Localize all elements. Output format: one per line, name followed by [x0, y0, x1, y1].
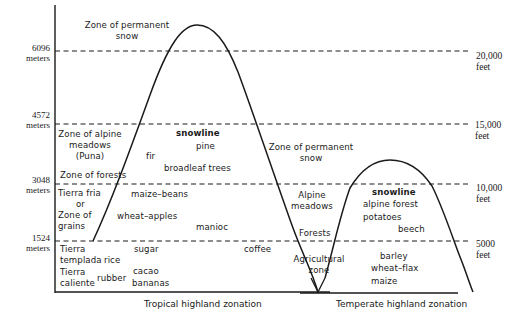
temperate-barley: barley — [380, 251, 408, 262]
zone-label-line: meadows — [58, 140, 122, 151]
temperate-caption: Temperate highland zonation — [336, 299, 467, 309]
zone-label-line: Tierra — [60, 267, 95, 278]
tropical-wheat-apples: wheat–apples — [117, 211, 177, 222]
temperate-zone-alpine-meadows: Alpine meadows — [290, 190, 334, 212]
tick-value: 15,000 — [475, 120, 501, 131]
zone-label-line: (Puna) — [58, 151, 122, 162]
tropical-zone-tierra-caliente: Tierra caliente — [60, 267, 95, 289]
zone-label-line: meadows — [290, 201, 334, 212]
temperate-maize: maize — [371, 276, 397, 287]
right-tick-5000: 5000 feet — [476, 239, 495, 261]
tick-unit: feet — [476, 194, 502, 205]
temperate-beech: beech — [398, 224, 425, 235]
zone-label-line: Tierra fria — [58, 188, 104, 199]
tropical-rubber: rubber — [97, 273, 126, 284]
tropical-zone-alpine-meadows: Zone of alpine meadows (Puna) — [58, 129, 122, 162]
tropical-rice: rice — [104, 255, 120, 266]
temperate-zone-forests: Forests — [299, 228, 331, 239]
tropical-sugar: sugar — [134, 244, 159, 255]
tick-value: 3048 — [12, 175, 50, 185]
temperate-potatoes: potatoes — [363, 212, 402, 223]
temperate-zone-agricultural: Agricultural zone — [292, 254, 346, 276]
zone-label-line: snow — [266, 153, 356, 164]
tick-unit: feet — [476, 62, 502, 73]
tick-value: 6096 — [12, 43, 50, 53]
zone-label-line: snow — [72, 31, 182, 42]
tropical-cacao: cacao — [133, 266, 159, 277]
tropical-snowline: snowline — [176, 128, 220, 139]
tropical-zone-tierra-fria: Tierra fria or Zone of grains — [58, 188, 104, 232]
zone-label-line: Zone of — [58, 210, 104, 221]
tropical-pine: pine — [196, 141, 215, 152]
left-tick-6096: 6096 meters — [12, 43, 50, 63]
tropical-caption: Tropical highland zonation — [144, 299, 262, 309]
right-tick-10000: 10,000 feet — [476, 183, 502, 205]
zone-label-line: or — [58, 199, 104, 210]
tick-unit: meters — [12, 120, 50, 130]
left-tick-3048: 3048 meters — [12, 175, 50, 195]
tick-value: 1524 — [12, 233, 50, 243]
zone-label-line: zone — [292, 265, 346, 276]
tick-unit: meters — [12, 243, 50, 253]
tick-unit: feet — [476, 250, 495, 261]
tick-value: 4572 — [12, 110, 50, 120]
zone-label-line: Agricultural — [292, 254, 346, 265]
tick-value: 10,000 — [476, 183, 502, 194]
zone-label-line: templada — [60, 255, 102, 266]
tropical-zone-forests: Zone of forests — [60, 170, 126, 181]
tropical-broadleaf-trees: broadleaf trees — [164, 163, 231, 174]
right-tick-15000: 15,000 feet — [475, 120, 501, 142]
right-tick-20000: 20,000 feet — [476, 51, 502, 73]
left-tick-4572: 4572 meters — [12, 110, 50, 130]
tick-value: 20,000 — [476, 51, 502, 62]
tropical-bananas: bananas — [132, 278, 169, 289]
temperate-zone-permanent-snow: Zone of permanent snow — [266, 142, 356, 164]
temperate-snowline: snowline — [372, 187, 416, 198]
temperate-wheat-flax: wheat–flax — [371, 263, 418, 274]
temperate-alpine-forest: alpine forest — [363, 199, 418, 210]
tick-unit: feet — [475, 131, 501, 142]
zone-label-line: Zone of alpine — [58, 129, 122, 140]
zone-label-line: Alpine — [290, 190, 334, 201]
tropical-zone-tierra-templada: Tierra templada — [60, 244, 102, 266]
tick-value: 5000 — [476, 239, 495, 250]
tropical-maize-beans: maize–beans — [131, 189, 188, 200]
zone-label-line: grains — [58, 221, 104, 232]
zone-label-line: Zone of permanent — [266, 142, 356, 153]
tropical-fir: fir — [146, 151, 155, 162]
tropical-manioc: manioc — [196, 222, 228, 233]
tropical-coffee: coffee — [244, 244, 271, 255]
tropical-zone-permanent-snow: Zone of permanent snow — [72, 20, 182, 42]
tick-unit: meters — [12, 53, 50, 63]
zone-label-line: Zone of permanent — [72, 20, 182, 31]
zone-label-line: Tierra — [60, 244, 102, 255]
left-tick-1524: 1524 meters — [12, 233, 50, 253]
zone-label-line: caliente — [60, 278, 95, 289]
tick-unit: meters — [12, 185, 50, 195]
